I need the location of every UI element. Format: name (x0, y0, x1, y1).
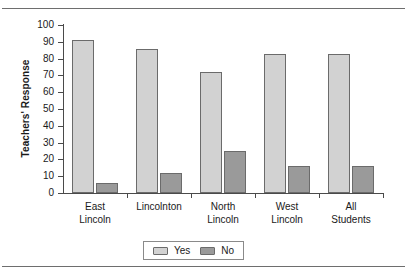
x-axis-tick (319, 193, 320, 198)
legend-label-no: No (221, 245, 234, 256)
y-axis-tick-label: 40 (14, 121, 54, 131)
legend-label-yes: Yes (174, 245, 190, 256)
category-label-line: Students (309, 213, 393, 226)
bar-yes (328, 54, 350, 193)
bar-yes (264, 54, 286, 193)
bar-yes (200, 72, 222, 193)
y-axis-tick-label: 0 (14, 188, 54, 198)
chart-legend: Yes No (143, 241, 244, 260)
y-axis-tick-label: 30 (14, 138, 54, 148)
bar-yes (72, 40, 94, 193)
y-axis-tick-label: 70 (14, 70, 54, 80)
x-axis-tick (191, 193, 192, 198)
legend-entry-yes[interactable]: Yes (153, 245, 190, 256)
x-axis-tick (127, 193, 128, 198)
y-axis-tick-label: 20 (14, 154, 54, 164)
x-axis-line (63, 193, 384, 194)
bar-no (96, 183, 118, 193)
y-axis-tick-label: 90 (14, 37, 54, 47)
y-axis-tick-label: 80 (14, 54, 54, 64)
bar-no (288, 166, 310, 193)
bar-chart-figure: Teachers' Response 010203040506070809010… (0, 0, 407, 275)
plot-area (63, 25, 383, 193)
bottom-divider-rule (2, 266, 405, 267)
x-axis-category-label: AllStudents (309, 200, 393, 226)
category-label-line: Lincoln (53, 213, 137, 226)
y-axis-tick-label: 100 (14, 20, 54, 30)
y-axis-tick-label: 50 (14, 104, 54, 114)
legend-swatch-no-icon (200, 247, 215, 255)
bar-no (160, 173, 182, 193)
y-axis-tick-label: 10 (14, 171, 54, 181)
legend-swatch-yes-icon (153, 247, 168, 255)
bar-yes (136, 49, 158, 193)
y-axis-tick-label: 60 (14, 87, 54, 97)
top-divider-rule (2, 8, 405, 9)
category-label-line: All (309, 200, 393, 213)
bar-no (224, 151, 246, 193)
y-axis-tick (58, 193, 64, 194)
legend-entry-no[interactable]: No (200, 245, 234, 256)
bar-no (352, 166, 374, 193)
x-axis-tick (255, 193, 256, 198)
x-axis-tick (383, 193, 384, 198)
